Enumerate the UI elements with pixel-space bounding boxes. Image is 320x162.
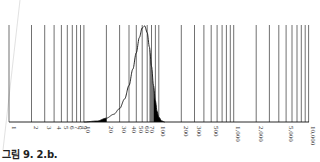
x-tick-labels: 123456789102030405060701002003005001,000… xyxy=(10,126,318,146)
x-tick-label: 10,000 xyxy=(309,126,317,146)
figure-caption: 그림 9. 2.b. xyxy=(2,146,57,161)
x-tick-label: 3 xyxy=(45,126,53,130)
x-tick-label: 10 xyxy=(84,126,92,134)
x-tick-label: 100 xyxy=(159,126,167,137)
x-tick-label: 1,000 xyxy=(234,126,242,142)
log-distribution-chart: 123456789102030405060701002003005001,000… xyxy=(0,0,320,162)
gridlines xyxy=(9,25,309,122)
x-tick-label: 500 xyxy=(212,126,220,137)
x-tick-label: 30 xyxy=(120,126,128,134)
shaded-regions xyxy=(84,47,165,122)
x-tick-label: 5,000 xyxy=(287,126,295,142)
x-tick-label: 4 xyxy=(55,126,63,130)
x-tick-label: 2 xyxy=(32,126,40,130)
x-tick-label: 40 xyxy=(130,126,138,134)
x-tick-label: 2,000 xyxy=(257,126,265,142)
x-tick-label: 70 xyxy=(148,126,156,134)
x-tick-label: 1 xyxy=(10,126,18,130)
x-tick-label: 20 xyxy=(107,126,115,134)
x-tick-label: 300 xyxy=(195,126,203,137)
x-tick-label: 200 xyxy=(182,126,190,137)
